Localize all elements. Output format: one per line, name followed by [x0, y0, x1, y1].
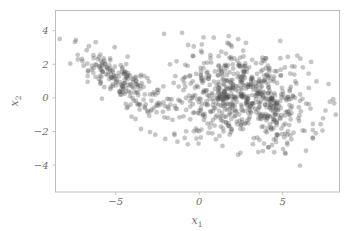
data-point — [87, 44, 92, 49]
data-point — [187, 74, 192, 79]
data-point — [124, 62, 129, 67]
data-point — [242, 69, 247, 74]
data-point — [180, 100, 185, 105]
data-point — [298, 92, 303, 97]
data-point — [112, 64, 117, 69]
data-point — [278, 56, 283, 61]
data-point — [272, 74, 277, 79]
data-point — [143, 102, 148, 107]
data-point — [241, 48, 246, 53]
data-point — [174, 59, 179, 64]
data-point — [155, 87, 160, 92]
data-point — [208, 56, 213, 61]
data-point — [80, 59, 85, 64]
data-point — [292, 95, 297, 100]
data-point — [222, 64, 227, 69]
data-point — [168, 102, 173, 107]
x-tick-label: −5 — [108, 196, 123, 207]
data-point — [272, 69, 277, 74]
data-point — [172, 133, 177, 138]
data-point — [219, 49, 224, 54]
data-point — [160, 109, 165, 114]
data-point — [199, 48, 204, 53]
data-point — [122, 77, 127, 82]
x-tick-label: 5 — [280, 196, 286, 207]
data-point — [228, 80, 233, 85]
data-point — [134, 78, 139, 83]
data-point — [223, 51, 228, 56]
data-point — [191, 93, 196, 98]
data-point — [125, 54, 130, 59]
data-point — [191, 102, 196, 107]
data-point — [226, 95, 231, 100]
data-point — [94, 63, 99, 68]
data-point — [225, 41, 230, 46]
data-point — [331, 97, 336, 102]
data-point — [234, 119, 239, 124]
data-point — [321, 116, 326, 121]
data-point — [257, 77, 262, 82]
data-point — [121, 87, 126, 92]
data-point — [202, 114, 207, 119]
data-point — [85, 74, 90, 79]
data-point — [142, 92, 147, 97]
data-point — [222, 82, 227, 87]
data-point — [269, 125, 274, 130]
data-point — [229, 130, 234, 135]
data-point — [210, 92, 215, 97]
data-point — [279, 73, 284, 78]
data-point — [198, 66, 203, 71]
data-point — [236, 37, 241, 42]
data-point — [100, 96, 105, 101]
data-point — [320, 128, 325, 133]
data-point — [227, 111, 232, 116]
data-point — [182, 136, 187, 141]
data-point — [148, 130, 153, 135]
data-point — [196, 85, 201, 90]
data-point — [108, 72, 113, 77]
data-point — [293, 79, 298, 84]
data-point — [201, 35, 206, 40]
data-point — [199, 76, 204, 81]
data-point — [246, 94, 251, 99]
data-point — [220, 144, 225, 149]
data-point — [280, 86, 285, 91]
data-point — [326, 82, 331, 87]
data-point — [333, 112, 338, 117]
data-point — [309, 60, 314, 65]
data-point — [84, 48, 89, 53]
data-point — [254, 61, 259, 66]
data-point — [152, 105, 157, 110]
data-point — [265, 100, 270, 105]
data-point — [234, 110, 239, 115]
data-point — [202, 61, 207, 66]
data-point — [182, 75, 187, 80]
data-point — [308, 106, 313, 111]
data-point — [259, 69, 264, 74]
data-point — [108, 87, 113, 92]
data-point — [227, 55, 232, 60]
data-point — [100, 60, 105, 65]
data-point — [163, 136, 168, 141]
data-point — [229, 44, 234, 49]
data-point — [226, 34, 231, 39]
scatter-plot-figure: −505−4−2024 x1 x2 — [0, 0, 359, 231]
y-axis-label: x2 — [8, 95, 23, 106]
data-point — [262, 141, 267, 146]
data-point — [306, 71, 311, 76]
data-point — [110, 82, 115, 87]
data-point — [295, 53, 300, 58]
data-point — [216, 54, 221, 59]
data-point — [188, 117, 193, 122]
data-point — [181, 88, 186, 93]
data-point — [249, 110, 254, 115]
data-point — [310, 136, 315, 141]
data-point — [313, 131, 318, 136]
data-point — [278, 39, 283, 44]
data-point — [231, 66, 236, 71]
data-point — [138, 74, 143, 79]
data-point — [241, 54, 246, 59]
data-point — [170, 118, 175, 123]
data-point — [137, 107, 142, 112]
data-point — [244, 41, 249, 46]
